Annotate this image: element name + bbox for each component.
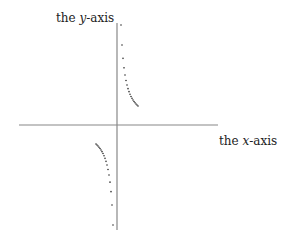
curve-point <box>129 93 131 95</box>
curve-point <box>111 204 113 206</box>
curve-point <box>95 143 97 145</box>
curve-point <box>107 169 109 171</box>
curve-point <box>121 44 123 46</box>
curve-point <box>137 105 139 107</box>
curve-point <box>99 148 101 150</box>
curve-point <box>126 84 128 86</box>
curve-point <box>100 149 102 151</box>
curve-point <box>128 91 130 93</box>
curve-point <box>103 155 105 157</box>
curve-point <box>132 99 134 101</box>
curve-point <box>101 151 103 153</box>
x-axis-label-suffix: -axis <box>249 134 277 148</box>
curve-point <box>105 161 107 163</box>
curve-point <box>125 80 127 82</box>
curve-point <box>108 174 110 176</box>
x-axis-label: the x-axis <box>219 134 277 148</box>
curve-point <box>127 88 129 90</box>
curve-point <box>106 164 108 166</box>
curve-point <box>104 158 106 160</box>
x-axis-label-prefix: the <box>219 134 242 148</box>
y-axis-label: the y-axis <box>56 11 114 25</box>
curve-point <box>123 67 125 69</box>
curve-point <box>110 191 112 193</box>
curve-point <box>122 58 124 60</box>
curve-point <box>133 101 135 103</box>
curve-point <box>120 24 122 26</box>
hyperbola-plot <box>0 0 288 246</box>
curve-point <box>124 74 126 76</box>
y-axis-label-suffix: -axis <box>86 11 114 25</box>
curve-point <box>131 98 133 100</box>
curve-point <box>109 181 111 183</box>
curve-point <box>112 224 114 226</box>
curve-point <box>102 153 104 155</box>
curve-point <box>130 96 132 98</box>
y-axis-label-prefix: the <box>56 11 79 25</box>
